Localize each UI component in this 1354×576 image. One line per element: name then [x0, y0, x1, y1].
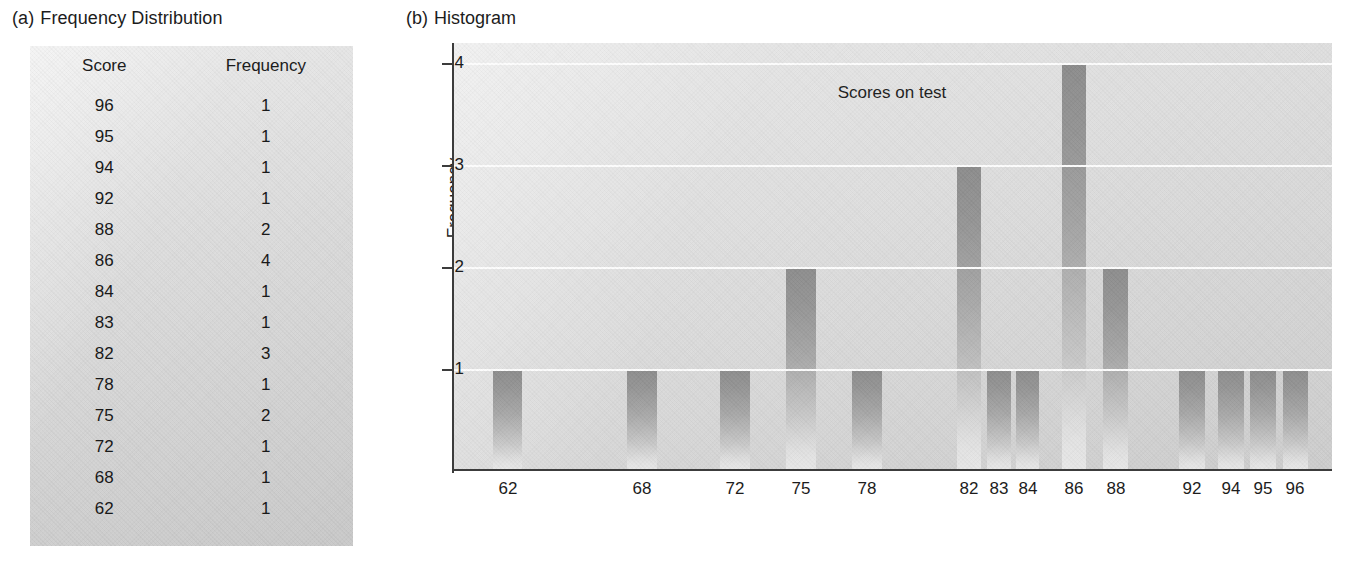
cell-score: 83 [30, 307, 179, 338]
cell-score: 96 [30, 90, 179, 121]
x-tick-label: 92 [1183, 479, 1202, 499]
cell-score: 94 [30, 152, 179, 183]
x-tick-label: 83 [990, 479, 1009, 499]
table-row: 82 3 [30, 338, 353, 369]
x-tick-label: 96 [1286, 479, 1305, 499]
cell-score: 88 [30, 214, 179, 245]
cell-score: 95 [30, 121, 179, 152]
cell-frequency: 1 [179, 276, 353, 307]
table-row: 84 1 [30, 276, 353, 307]
table-row: 92 1 [30, 183, 353, 214]
panel-histogram: (b)Histogram Frequency 1234 626872757882… [400, 0, 1354, 576]
histogram-bar [720, 369, 749, 471]
x-axis-ticks: 6268727578828384868892949596 [452, 471, 1332, 551]
gridline [452, 267, 1332, 269]
cell-frequency: 3 [179, 338, 353, 369]
table-row: 68 1 [30, 462, 353, 493]
table-row: 78 1 [30, 369, 353, 400]
histogram-bar [957, 165, 980, 471]
gridline [452, 369, 1332, 371]
histogram-bar [1218, 369, 1243, 471]
cell-frequency: 4 [179, 245, 353, 276]
x-tick-label: 95 [1254, 479, 1273, 499]
histogram-plot: 1234 6268727578828384868892949596 Scores… [452, 43, 1332, 471]
panel-a-caption-text: Frequency Distribution [40, 8, 222, 28]
panel-b-caption: (b)Histogram [406, 8, 516, 29]
cell-frequency: 1 [179, 183, 353, 214]
x-tick-label: 94 [1222, 479, 1241, 499]
cell-frequency: 1 [179, 431, 353, 462]
table-header-row: Score Frequency [30, 46, 353, 90]
table-row: 96 1 [30, 90, 353, 121]
x-tick-label: 86 [1065, 479, 1084, 499]
histogram-bar [1283, 369, 1308, 471]
histogram-bar [1016, 369, 1039, 471]
x-tick-label: 62 [498, 479, 517, 499]
panel-b-caption-text: Histogram [434, 8, 516, 28]
column-header-frequency: Frequency [179, 46, 353, 90]
cell-frequency: 1 [179, 90, 353, 121]
table-row: 83 1 [30, 307, 353, 338]
cell-score: 78 [30, 369, 179, 400]
panel-b-caption-letter: (b) [406, 8, 428, 28]
histogram-bar [1250, 369, 1275, 471]
cell-frequency: 1 [179, 462, 353, 493]
y-tick-label: 1 [438, 359, 464, 379]
panel-a-caption: (a)Frequency Distribution [12, 8, 223, 29]
cell-frequency: 2 [179, 400, 353, 431]
table-row: 95 1 [30, 121, 353, 152]
cell-score: 92 [30, 183, 179, 214]
table-row: 72 1 [30, 431, 353, 462]
cell-score: 86 [30, 245, 179, 276]
cell-frequency: 1 [179, 121, 353, 152]
cell-frequency: 2 [179, 214, 353, 245]
cell-frequency: 1 [179, 152, 353, 183]
cell-score: 62 [30, 493, 179, 524]
histogram-bar [987, 369, 1010, 471]
frequency-table-body: 96 1 95 1 94 1 92 1 88 2 [30, 90, 353, 524]
histogram-bar [1179, 369, 1204, 471]
x-axis-label: Scores on test [452, 83, 1332, 103]
cell-score: 75 [30, 400, 179, 431]
table-row: 62 1 [30, 493, 353, 524]
histogram-bar [493, 369, 522, 471]
histogram-bar [852, 369, 881, 471]
cell-score: 68 [30, 462, 179, 493]
x-axis-line [452, 469, 1332, 471]
panel-frequency-distribution: (a)Frequency Distribution Score Frequenc… [0, 0, 400, 576]
x-tick-label: 84 [1018, 479, 1037, 499]
cell-score: 72 [30, 431, 179, 462]
x-tick-label: 78 [858, 479, 877, 499]
y-tick-label: 2 [438, 257, 464, 277]
y-tick-label: 4 [438, 53, 464, 73]
y-tick-label: 3 [438, 155, 464, 175]
x-tick-label: 72 [726, 479, 745, 499]
cell-frequency: 1 [179, 369, 353, 400]
cell-score: 84 [30, 276, 179, 307]
cell-score: 82 [30, 338, 179, 369]
gridline [452, 165, 1332, 167]
x-tick-label: 68 [633, 479, 652, 499]
gridline [452, 63, 1332, 65]
frequency-table-panel: Score Frequency 96 1 95 1 94 1 92 [30, 46, 353, 546]
table-row: 94 1 [30, 152, 353, 183]
cell-frequency: 1 [179, 493, 353, 524]
table-row: 86 4 [30, 245, 353, 276]
x-tick-label: 82 [960, 479, 979, 499]
histogram-bar [627, 369, 656, 471]
table-row: 75 2 [30, 400, 353, 431]
table-row: 88 2 [30, 214, 353, 245]
x-tick-label: 88 [1106, 479, 1125, 499]
panel-a-caption-letter: (a) [12, 8, 34, 28]
column-header-score: Score [30, 46, 179, 90]
frequency-table: Score Frequency 96 1 95 1 94 1 92 [30, 46, 353, 524]
x-tick-label: 75 [792, 479, 811, 499]
cell-frequency: 1 [179, 307, 353, 338]
